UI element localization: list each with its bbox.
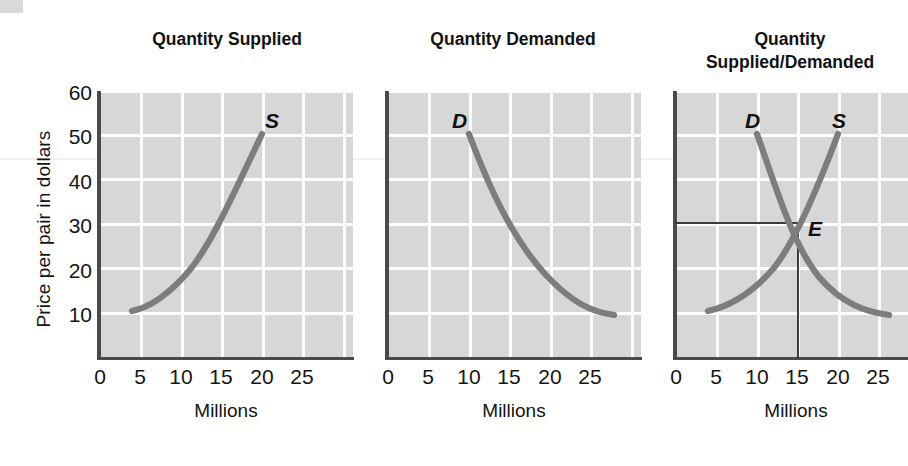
- x-tick-5-panel3: 5: [696, 366, 736, 387]
- curve-demand-3: [757, 134, 889, 315]
- x-axis-caption-panel3: Millions: [706, 400, 886, 422]
- x-tick-15-panel3: 15: [777, 366, 817, 387]
- x-tick-10-panel3: 10: [737, 366, 777, 387]
- curve-label-e-equilibrium: E: [808, 218, 822, 239]
- figure-canvas: Price per pair in dollars Quantity Suppl…: [0, 0, 908, 466]
- curve-label-s-panel3: S: [832, 110, 846, 131]
- panel-quantity-supplied-demanded: Quantity Supplied/Demanded D S E 0 5: [0, 0, 908, 466]
- curve-label-d-panel3: D: [745, 110, 760, 131]
- x-tick-0-panel3: 0: [656, 366, 696, 387]
- x-tick-20-panel3: 20: [818, 366, 858, 387]
- x-tick-25-panel3: 25: [858, 366, 898, 387]
- panel-title-supplied-demanded: Quantity Supplied/Demanded: [672, 28, 908, 74]
- curves-supply-demand-3: [676, 93, 908, 358]
